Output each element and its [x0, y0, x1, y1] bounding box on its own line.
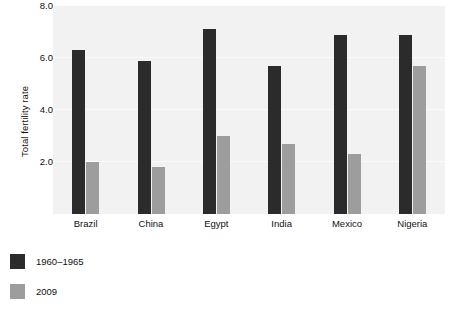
y-tick-label-8.0: 8.0 [17, 1, 53, 11]
x-tick-label-nigeria: Nigeria [372, 218, 452, 229]
bar-china-2009 [152, 167, 165, 214]
legend-item: 2009 [10, 280, 250, 302]
bar-india-2009 [282, 144, 295, 214]
legend-swatch-icon [10, 284, 25, 299]
legend-swatch-icon [10, 254, 25, 269]
x-axis-tick-labels: BrazilChinaEgyptIndiaMexicoNigeria [53, 218, 445, 234]
bar-nigeria-2009 [413, 66, 426, 214]
bar-nigeria-1960-1965 [399, 35, 412, 214]
legend-item: 1960–1965 [10, 250, 250, 272]
legend-label: 1960–1965 [36, 256, 84, 267]
bar-mexico-2009 [348, 154, 361, 214]
y-tick-label-4.0: 4.0 [17, 105, 53, 115]
y-axis-tick-labels: 2.04.06.08.0 [9, 0, 53, 240]
gridline-4.0 [53, 109, 445, 110]
plot-area [53, 6, 445, 214]
gridline-6.0 [53, 57, 445, 58]
bar-egypt-2009 [217, 136, 230, 214]
gridline-2.0 [53, 161, 445, 162]
chart-legend: 1960–19652009 [10, 250, 250, 310]
bar-brazil-1960-1965 [72, 50, 85, 214]
bar-india-1960-1965 [268, 66, 281, 214]
y-tick-label-6.0: 6.0 [17, 53, 53, 63]
fertility-rate-bar-chart: Total fertility rate 2.04.06.08.0 Brazil… [0, 0, 461, 314]
bar-china-1960-1965 [138, 61, 151, 214]
y-tick-label-2.0: 2.0 [17, 157, 53, 167]
bar-mexico-1960-1965 [334, 35, 347, 214]
legend-label: 2009 [36, 286, 57, 297]
bar-brazil-2009 [86, 162, 99, 214]
bar-egypt-1960-1965 [203, 29, 216, 214]
